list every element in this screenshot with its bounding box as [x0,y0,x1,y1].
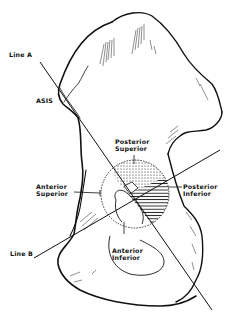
label-posterior-inferior: Posterior Inferior [183,184,217,198]
bone-outline [58,13,222,306]
label-posterior-superior: Posterior Superior [115,139,149,153]
label-line-b: Line B [10,251,33,258]
label-anterior-superior: Anterior Superior [36,184,68,198]
pelvis-diagram [0,0,228,316]
shading-strokes [70,24,208,282]
label-anterior-inferior: Anterior Inferior [112,248,143,262]
label-asis: ASIS [36,98,53,105]
label-line-a: Line A [9,52,32,59]
acetabulum [96,160,176,232]
